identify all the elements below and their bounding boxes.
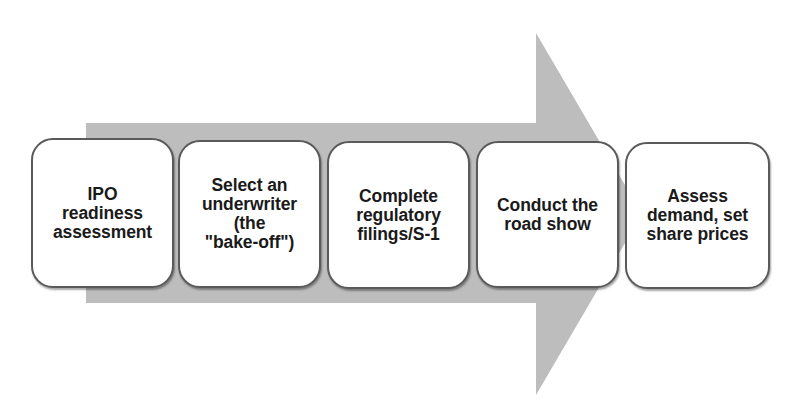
step-regulatory-filings: Complete regulatory filings/S-1 [327, 141, 470, 289]
step-label: Assess demand, set share prices [647, 187, 749, 244]
step-label: Complete regulatory filings/S-1 [356, 187, 441, 244]
step-label: IPO readiness assessment [53, 185, 152, 242]
step-road-show: Conduct the road show [476, 141, 619, 288]
step-select-underwriter: Select an underwriter (the "bake-off") [178, 140, 321, 288]
step-label: Select an underwriter (the "bake-off") [202, 176, 297, 252]
step-assess-demand: Assess demand, set share prices [625, 142, 770, 289]
step-label: Conduct the road show [497, 196, 598, 234]
step-ipo-readiness: IPO readiness assessment [31, 138, 174, 288]
